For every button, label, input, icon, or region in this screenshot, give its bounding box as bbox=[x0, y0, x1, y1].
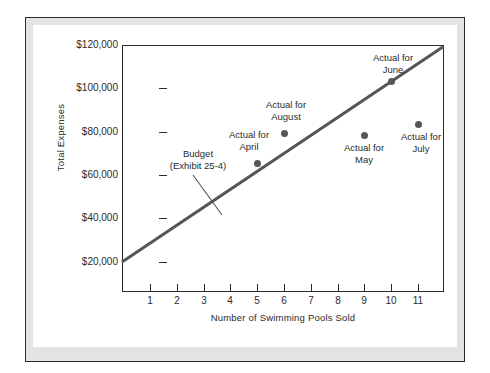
y-tick-label-80000: $80,000 bbox=[46, 126, 118, 137]
x-tick-label-9: 9 bbox=[354, 295, 374, 306]
x-tick-mark-2 bbox=[177, 284, 178, 292]
data-point-july[interactable] bbox=[415, 121, 422, 128]
x-tick-mark-10 bbox=[391, 284, 392, 292]
x-tick-label-6: 6 bbox=[274, 295, 294, 306]
x-tick-mark-3 bbox=[204, 284, 205, 292]
data-label-july: Actual for July bbox=[373, 131, 469, 154]
x-tick-label-1: 1 bbox=[140, 295, 160, 306]
chart-page: Total Expenses $120,000 $100,000 $80,000… bbox=[0, 0, 490, 373]
y-tick-label-40000: $40,000 bbox=[46, 212, 118, 223]
y-tick-label-20000: $20,000 bbox=[46, 256, 118, 267]
data-label-june: Actual for June bbox=[345, 52, 441, 75]
x-tick-mark-6 bbox=[284, 284, 285, 292]
x-tick-mark-1 bbox=[150, 284, 151, 292]
data-label-august: Actual for August bbox=[238, 99, 334, 122]
x-tick-mark-8 bbox=[338, 284, 339, 292]
x-tick-label-11: 11 bbox=[408, 295, 428, 306]
x-tick-mark-5 bbox=[257, 284, 258, 292]
x-tick-mark-11 bbox=[418, 284, 419, 292]
data-label-april: Actual for April bbox=[201, 129, 297, 152]
data-point-june[interactable] bbox=[388, 78, 395, 85]
x-tick-label-3: 3 bbox=[194, 295, 214, 306]
x-tick-mark-7 bbox=[311, 284, 312, 292]
x-tick-label-4: 4 bbox=[220, 295, 240, 306]
y-tick-label-60000: $60,000 bbox=[46, 169, 118, 180]
x-axis-title: Number of Swimming Pools Sold bbox=[122, 312, 444, 323]
x-tick-label-7: 7 bbox=[301, 295, 321, 306]
data-point-april[interactable] bbox=[254, 160, 261, 167]
y-axis-ticks: $120,000 $100,000 $80,000 $60,000 $40,00… bbox=[44, 0, 118, 292]
y-tick-label-120000: $120,000 bbox=[46, 39, 118, 50]
x-tick-label-8: 8 bbox=[328, 295, 348, 306]
data-point-may[interactable] bbox=[361, 132, 368, 139]
x-tick-label-2: 2 bbox=[167, 295, 187, 306]
x-tick-mark-9 bbox=[364, 284, 365, 292]
x-tick-label-5: 5 bbox=[247, 295, 267, 306]
x-tick-mark-4 bbox=[230, 284, 231, 292]
x-tick-label-10: 10 bbox=[381, 295, 401, 306]
y-tick-label-100000: $100,000 bbox=[46, 82, 118, 93]
